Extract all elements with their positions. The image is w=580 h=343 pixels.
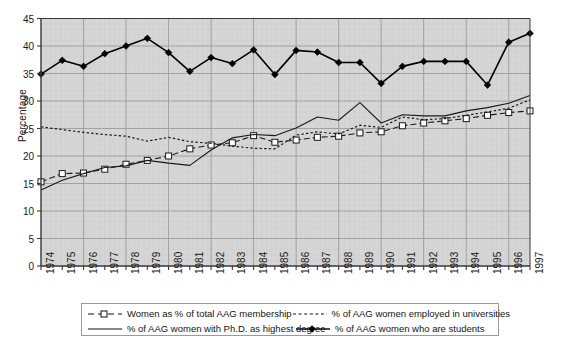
x-tick-label: 1996 xyxy=(513,252,524,274)
x-tick-label: 1978 xyxy=(130,252,141,274)
x-tick-label: 1980 xyxy=(173,252,184,274)
data-point-square xyxy=(421,120,427,126)
legend-item-label: % of AAG women employed in universities xyxy=(332,308,510,319)
x-tick-label: 1983 xyxy=(236,252,247,274)
legend-marker-diamond xyxy=(308,325,315,332)
data-point-square xyxy=(378,129,384,135)
legend-row: % of AAG women with Ph.D. as highest deg… xyxy=(87,321,493,336)
legend-item[interactable]: % of AAG women with Ph.D. as highest deg… xyxy=(87,323,295,335)
plot-area xyxy=(0,0,580,343)
x-tick-label: 1990 xyxy=(385,252,396,274)
data-point-square xyxy=(484,112,490,118)
data-point-square xyxy=(187,146,193,152)
chart-legend: Women as % of total AAG membership% of A… xyxy=(81,303,499,336)
x-tick-label: 1977 xyxy=(109,252,120,274)
x-tick-label: 1974 xyxy=(45,252,56,274)
x-tick-label: 1987 xyxy=(321,252,332,274)
x-tick-label: 1984 xyxy=(258,252,269,274)
legend-item[interactable]: Women as % of total AAG membership xyxy=(87,308,292,320)
data-point-square xyxy=(272,139,278,145)
x-tick-label: 1991 xyxy=(406,252,417,274)
x-tick-label: 1975 xyxy=(66,252,77,274)
data-point-square xyxy=(251,133,257,139)
legend-symbol-dotted xyxy=(292,308,328,320)
data-point-square xyxy=(463,116,469,122)
x-tick-label: 1995 xyxy=(492,252,503,274)
data-point-square xyxy=(314,134,320,140)
x-tick-label: 1993 xyxy=(449,252,460,274)
x-tick-label: 1982 xyxy=(215,252,226,274)
legend-symbol-solid xyxy=(87,323,123,335)
data-point-square xyxy=(399,123,405,129)
line-chart: Percentage 051015202530354045 1974197519… xyxy=(0,0,580,343)
x-tick-label: 1997 xyxy=(534,252,545,274)
legend-symbol-dashed-open-square xyxy=(87,308,123,320)
data-point-square xyxy=(59,171,65,177)
data-point-square xyxy=(506,110,512,116)
x-tick-label: 1994 xyxy=(470,252,481,274)
data-point-square xyxy=(166,153,172,159)
legend-symbol-solid-filled-diamond xyxy=(295,323,331,335)
x-tick-label: 1985 xyxy=(279,252,290,274)
x-tick-label: 1981 xyxy=(194,252,205,274)
legend-item-label: % of AAG women who are students xyxy=(335,323,484,334)
data-point-square xyxy=(229,140,235,146)
data-point-square xyxy=(357,130,363,136)
x-tick-label: 1976 xyxy=(88,252,99,274)
legend-marker-square xyxy=(101,311,107,317)
legend-row: Women as % of total AAG membership% of A… xyxy=(87,306,493,321)
x-tick-label: 1986 xyxy=(300,252,311,274)
legend-item[interactable]: % of AAG women employed in universities xyxy=(292,308,510,320)
x-tick-label: 1992 xyxy=(428,252,439,274)
data-point-square xyxy=(293,137,299,143)
legend-item[interactable]: % of AAG women who are students xyxy=(295,323,484,335)
x-tick-label: 1979 xyxy=(151,252,162,274)
x-tick-label: 1989 xyxy=(364,252,375,274)
x-tick-label: 1988 xyxy=(343,252,354,274)
legend-item-label: Women as % of total AAG membership xyxy=(127,308,292,319)
